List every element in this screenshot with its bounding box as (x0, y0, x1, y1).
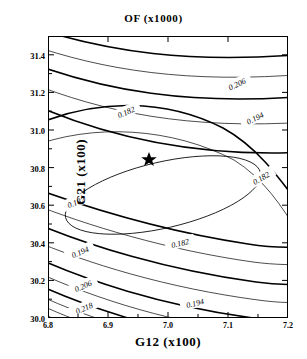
svg-text:0.206: 0.206 (227, 77, 247, 93)
y-tick-label: 31.0 (11, 126, 45, 136)
inner-contour-ellipse (58, 140, 268, 249)
y-tick-label: 31.2 (11, 88, 45, 98)
svg-text:0.206: 0.206 (73, 279, 93, 294)
chart-title: OF (x1000) (0, 12, 307, 24)
y-tick-label: 30.8 (11, 164, 45, 174)
x-tick-label: 6.8 (31, 321, 65, 330)
x-tick-label: 7.2 (271, 321, 305, 330)
y-tick-label: 30.4 (11, 239, 45, 249)
x-tick-label: 6.9 (91, 321, 125, 330)
y-tick-label: 30.2 (11, 276, 45, 286)
minimum-star-marker (141, 152, 156, 166)
contour-plot-figure: OF (x1000) (0, 0, 307, 359)
x-tick-label: 7.1 (211, 321, 245, 330)
y-tick-label: 30.6 (11, 201, 45, 211)
x-tick-label: 7.0 (151, 321, 185, 330)
x-axis-title: G12 (x100) (48, 334, 288, 350)
svg-text:0.182: 0.182 (116, 105, 136, 120)
y-tick-label: 31.4 (11, 51, 45, 61)
y-axis-title: G21 (x100) (73, 87, 89, 257)
plot-area: 0.182 0.194 0.206 0.182 0.182 (48, 36, 288, 318)
